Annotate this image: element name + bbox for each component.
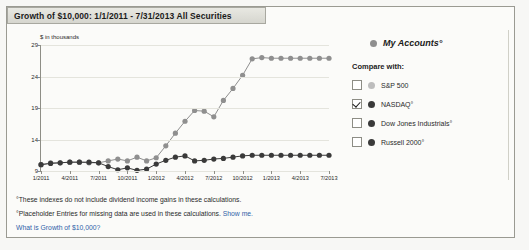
data-point[interactable]: [298, 56, 303, 61]
data-point[interactable]: [77, 160, 82, 165]
data-point[interactable]: [182, 153, 187, 158]
data-point[interactable]: [250, 56, 255, 61]
legend-checkbox[interactable]: [352, 137, 362, 147]
x-tick-label: 7/2011: [90, 175, 107, 181]
x-tick-label: 4/2012: [176, 175, 193, 181]
data-point[interactable]: [192, 158, 197, 163]
data-point[interactable]: [115, 156, 120, 161]
y-tick-mark: [38, 77, 41, 78]
compare-with-heading: Compare with:: [352, 62, 512, 71]
legend-label-my-accounts: My Accounts°: [383, 38, 442, 48]
data-point[interactable]: [326, 56, 331, 61]
data-point[interactable]: [211, 114, 216, 119]
data-point[interactable]: [58, 160, 63, 165]
data-point[interactable]: [326, 153, 331, 158]
x-tick-label: 7/2013: [320, 175, 337, 181]
data-point[interactable]: [67, 160, 72, 165]
data-point[interactable]: [154, 155, 159, 160]
data-point[interactable]: [298, 153, 303, 158]
page-title: Growth of $10,000: 1/1/2011 - 7/31/2013 …: [8, 11, 232, 21]
x-tick-mark: [70, 171, 71, 174]
legend-item-list: S&P 500NASDAQ°Dow Jones Industrials°Russ…: [352, 80, 512, 147]
data-point[interactable]: [269, 56, 274, 61]
data-point[interactable]: [202, 109, 207, 114]
data-point[interactable]: [250, 153, 255, 158]
data-point[interactable]: [307, 153, 312, 158]
data-point[interactable]: [288, 56, 293, 61]
data-point[interactable]: [221, 98, 226, 103]
legend-primary-row: My Accounts°: [370, 38, 512, 48]
legend-checkbox[interactable]: [352, 80, 362, 90]
legend-item[interactable]: S&P 500: [352, 80, 512, 90]
data-point[interactable]: [278, 56, 283, 61]
data-point[interactable]: [269, 153, 274, 158]
data-point[interactable]: [86, 160, 91, 165]
data-point[interactable]: [221, 156, 226, 161]
data-point[interactable]: [154, 161, 159, 166]
data-point[interactable]: [106, 158, 111, 163]
x-tick-mark: [185, 171, 186, 174]
what-is-growth-link[interactable]: What is Growth of $10,000?: [16, 224, 416, 231]
data-point[interactable]: [144, 158, 149, 163]
series-line: [41, 58, 329, 165]
footnote-indexes: °These indexes do not include dividend i…: [16, 196, 416, 203]
data-point[interactable]: [230, 155, 235, 160]
y-axis-unit-label: $ in thousands: [40, 34, 79, 40]
data-point[interactable]: [163, 143, 168, 148]
legend-item[interactable]: NASDAQ°: [352, 99, 512, 109]
footnotes: °These indexes do not include dividend i…: [16, 196, 416, 231]
legend-checkbox[interactable]: [352, 118, 362, 128]
grid-line: [41, 108, 329, 109]
legend-checkbox[interactable]: [352, 99, 362, 109]
data-point[interactable]: [182, 119, 187, 124]
x-tick-label: 1/2011: [33, 175, 50, 181]
data-point[interactable]: [230, 86, 235, 91]
data-point[interactable]: [96, 160, 101, 165]
data-point[interactable]: [134, 155, 139, 160]
data-point[interactable]: [307, 56, 312, 61]
grid-line: [41, 45, 329, 46]
data-point[interactable]: [240, 153, 245, 158]
growth-chart-panel: Growth of $10,000: 1/1/2011 - 7/31/2013 …: [0, 0, 529, 250]
x-tick-label: 7/2012: [205, 175, 222, 181]
data-point[interactable]: [259, 55, 264, 60]
x-tick-label: 4/2013: [292, 175, 309, 181]
data-point[interactable]: [163, 158, 168, 163]
show-me-link[interactable]: Show me.: [223, 210, 253, 217]
data-point[interactable]: [48, 161, 53, 166]
x-tick-mark: [271, 171, 272, 174]
x-tick-mark: [329, 171, 330, 174]
data-point[interactable]: [211, 156, 216, 161]
legend-item-label: Russell 2000°: [381, 139, 424, 146]
data-point[interactable]: [288, 153, 293, 158]
legend-item[interactable]: Dow Jones Industrials°: [352, 118, 512, 128]
y-tick-label: 29: [31, 42, 38, 48]
legend-item[interactable]: Russell 2000°: [352, 137, 512, 147]
x-tick-mark: [41, 171, 42, 174]
data-point[interactable]: [173, 155, 178, 160]
legend-marker-icon: [368, 120, 375, 127]
data-point[interactable]: [317, 153, 322, 158]
data-point[interactable]: [317, 56, 322, 61]
x-tick-label: 10/2012: [232, 175, 252, 181]
x-tick-mark: [214, 171, 215, 174]
data-point[interactable]: [278, 153, 283, 158]
legend-marker-icon: [368, 139, 375, 146]
x-tick-mark: [156, 171, 157, 174]
data-point[interactable]: [38, 162, 43, 167]
data-point[interactable]: [259, 153, 264, 158]
footnote-placeholder: °Placeholder Entries for missing data ar…: [16, 210, 416, 217]
y-tick-label: 24: [31, 74, 38, 80]
data-point[interactable]: [202, 158, 207, 163]
data-point[interactable]: [125, 165, 130, 170]
data-point[interactable]: [125, 158, 130, 163]
panel-title-bar: Growth of $10,000: 1/1/2011 - 7/31/2013 …: [7, 7, 266, 24]
data-point[interactable]: [106, 164, 111, 169]
footnote-placeholder-text: °Placeholder Entries for missing data ar…: [16, 210, 221, 217]
data-point[interactable]: [173, 131, 178, 136]
y-tick-label: 9: [35, 168, 38, 174]
legend-marker-icon: [368, 101, 375, 108]
legend-item-label: S&P 500: [381, 82, 409, 89]
chart-area: $ in thousands 9141924291/20114/20117/20…: [26, 36, 331, 186]
x-tick-label: 10/2011: [117, 175, 137, 181]
